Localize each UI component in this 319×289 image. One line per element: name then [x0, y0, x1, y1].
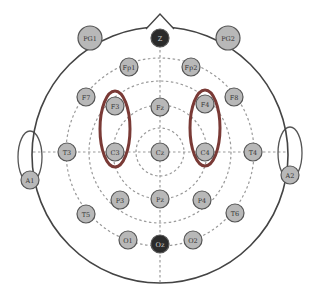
- electrode-pg2: PG2: [216, 26, 240, 50]
- electrode-f8: F8: [225, 88, 243, 106]
- nose: [146, 14, 174, 29]
- electrode-f4: F4: [196, 95, 214, 113]
- electrode-label: A1: [25, 177, 35, 185]
- electrode-label: P3: [116, 197, 125, 205]
- electrode-z: Z: [151, 29, 169, 47]
- electrode-label: T6: [231, 210, 239, 218]
- electrode-label: O1: [123, 237, 132, 245]
- electrode-label: Cz: [156, 149, 165, 157]
- electrode-label: F7: [82, 94, 91, 102]
- electrode-t4: T4: [244, 143, 262, 161]
- electrode-label: Z: [158, 35, 163, 43]
- electrode-p3: P3: [111, 191, 129, 209]
- electrode-p4: P4: [193, 191, 211, 209]
- electrode-fp2: Fp2: [182, 58, 200, 76]
- electrode-c3: C3: [106, 143, 124, 161]
- electrode-label: O2: [188, 237, 197, 245]
- electrode-f3: F3: [106, 97, 124, 115]
- electrode-f7: F7: [77, 88, 95, 106]
- electrode-fz: Fz: [151, 98, 169, 116]
- electrode-label: Pz: [156, 196, 164, 204]
- electrode-label: F8: [230, 94, 239, 102]
- electrode-label: Fp1: [123, 64, 136, 72]
- electrode-c4: C4: [196, 143, 214, 161]
- electrode-t6: T6: [226, 204, 244, 222]
- electrode-label: C3: [110, 149, 119, 157]
- electrode-t3: T3: [58, 143, 76, 161]
- eeg-head-map: ZPG1PG2Fp1Fp2F7F3FzF4F8T3C3CzC4T4A1A2T5P…: [0, 0, 319, 289]
- eeg-diagram: ZPG1PG2Fp1Fp2F7F3FzF4F8T3C3CzC4T4A1A2T5P…: [0, 0, 319, 289]
- electrode-a1: A1: [21, 171, 39, 189]
- electrode-label: PG1: [83, 35, 97, 43]
- electrode-label: Oz: [156, 241, 165, 249]
- electrode-oz: Oz: [151, 235, 169, 253]
- electrode-cz: Cz: [151, 143, 169, 161]
- electrode-label: Fz: [156, 104, 165, 112]
- electrode-label: Fp2: [185, 64, 198, 72]
- electrode-o2: O2: [184, 231, 202, 249]
- electrode-a2: A2: [281, 166, 299, 184]
- electrode-label: PG2: [221, 35, 235, 43]
- electrode-pz: Pz: [151, 190, 169, 208]
- electrode-label: F3: [111, 103, 120, 111]
- electrode-label: P4: [198, 197, 207, 205]
- electrode-pg1: PG1: [78, 26, 102, 50]
- electrode-label: C4: [200, 149, 209, 157]
- electrode-t5: T5: [77, 205, 95, 223]
- electrode-fp1: Fp1: [120, 58, 138, 76]
- electrode-label: A2: [285, 172, 295, 180]
- electrode-label: T5: [82, 211, 90, 219]
- electrode-label: F4: [201, 101, 210, 109]
- electrode-label: T4: [249, 149, 257, 157]
- electrode-o1: O1: [119, 231, 137, 249]
- electrode-label: T3: [63, 149, 71, 157]
